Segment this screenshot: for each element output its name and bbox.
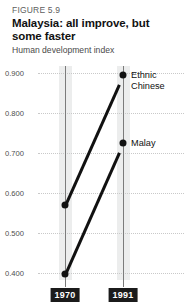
y-tick-label-0400: 0.400 [5, 269, 37, 278]
x-axis-label-1991: 1991 [109, 288, 138, 303]
series-label-ethnic-chinese: Ethnic Chinese [131, 70, 165, 91]
gridline-0700 [38, 153, 184, 154]
chart-plot-area: 0.900 0.800 0.700 0.600 0.500 0.400 Ethn… [0, 0, 184, 308]
y-tick-label-0500: 0.500 [5, 229, 37, 238]
gridline-0400 [38, 273, 184, 274]
series-label-malay: Malay [131, 138, 156, 149]
data-point-ethnic-chinese-1970 [62, 202, 69, 209]
y-tick-label-0900: 0.900 [5, 69, 37, 78]
x-axis-label-1970: 1970 [51, 288, 80, 303]
data-point-malay-1970 [62, 271, 69, 278]
y-tick-label-0600: 0.600 [5, 189, 37, 198]
y-tick-label-0800: 0.800 [5, 109, 37, 118]
year-axis-line-1970 [65, 66, 66, 287]
gridline-0500 [38, 233, 184, 234]
gridline-0600 [38, 193, 184, 194]
year-axis-line-1991 [123, 66, 124, 287]
series-line-malay [64, 152, 121, 276]
data-point-malay-1991 [120, 140, 127, 147]
series-line-ethnic-chinese [64, 84, 121, 207]
y-tick-label-0700: 0.700 [5, 149, 37, 158]
gridline-0800 [38, 113, 184, 114]
data-point-ethnic-chinese-1991 [120, 72, 127, 79]
